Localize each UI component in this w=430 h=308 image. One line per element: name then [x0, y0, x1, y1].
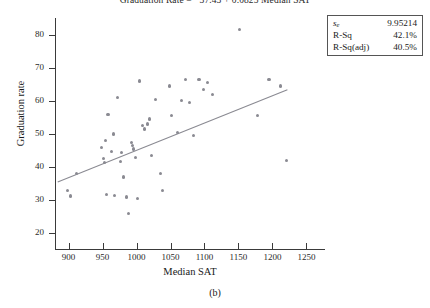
regression-equation-title: Graduation Rate = −37.43 + 0.0825 Median… — [0, 0, 430, 5]
stat-value: 40.5% — [393, 42, 417, 53]
x-tick-1200 — [272, 243, 273, 249]
data-point — [184, 78, 187, 81]
data-point — [188, 101, 191, 104]
data-point — [159, 172, 162, 175]
data-point — [211, 93, 214, 96]
data-point — [100, 146, 103, 149]
data-point — [168, 84, 171, 87]
x-tick-1150 — [238, 243, 239, 249]
x-axis-line — [55, 249, 325, 250]
panel-caption: (b) — [0, 287, 430, 298]
data-point — [134, 156, 137, 159]
y-tick-50 — [49, 134, 55, 135]
data-point — [66, 189, 69, 192]
stat-value: 9.95214 — [387, 18, 417, 29]
statistics-legend-box: se9.95214R-Sq42.1%R-Sq(adj)40.5% — [327, 15, 423, 56]
data-point — [102, 157, 105, 160]
data-point — [150, 154, 153, 157]
data-point — [138, 79, 141, 82]
data-point — [176, 131, 179, 134]
stat-key: R-Sq — [333, 30, 352, 41]
data-point — [122, 175, 125, 178]
y-tick-70 — [49, 68, 55, 69]
stat-key: R-Sq(adj) — [333, 42, 369, 53]
data-point — [69, 194, 72, 197]
data-point — [104, 139, 107, 142]
x-tick-950 — [103, 243, 104, 249]
data-point — [202, 88, 205, 91]
y-axis-label: Graduation rate — [15, 54, 26, 174]
data-point — [120, 151, 123, 154]
stat-row: se9.95214 — [328, 18, 422, 30]
data-point — [267, 78, 270, 81]
regression-scatter-figure: Graduation Rate = −37.43 + 0.0825 Median… — [0, 0, 430, 308]
data-point — [192, 134, 195, 137]
x-tick-1000 — [137, 243, 138, 249]
data-point — [125, 195, 128, 198]
data-point — [136, 197, 139, 200]
y-tick-30 — [49, 200, 55, 201]
data-point — [103, 161, 106, 164]
data-point — [105, 193, 108, 196]
stat-value: 42.1% — [393, 30, 417, 41]
data-point — [110, 150, 113, 153]
data-point — [116, 96, 119, 99]
x-tick-1250 — [306, 243, 307, 249]
data-point — [238, 28, 241, 31]
data-point — [206, 81, 209, 84]
data-point — [113, 194, 116, 197]
regression-fit-line — [55, 18, 320, 250]
y-tick-label-30: 30 — [14, 195, 44, 204]
data-point — [127, 212, 130, 215]
x-tick-1100 — [204, 243, 205, 249]
stat-key: se — [333, 18, 340, 30]
x-axis-label: Median SAT — [55, 266, 325, 277]
data-point — [180, 99, 183, 102]
x-tick-900 — [69, 243, 70, 249]
y-tick-label-80: 80 — [14, 30, 44, 39]
data-point — [285, 159, 288, 162]
data-point — [148, 117, 151, 120]
y-tick-40 — [49, 167, 55, 168]
data-point — [132, 147, 135, 150]
data-point — [170, 114, 173, 117]
data-point — [161, 189, 164, 192]
y-tick-60 — [49, 101, 55, 102]
y-axis-line — [55, 18, 56, 250]
data-point — [143, 127, 146, 130]
data-point — [256, 114, 259, 117]
y-tick-20 — [49, 233, 55, 234]
x-tick-label-1250: 1250 — [286, 253, 326, 262]
data-point — [112, 132, 115, 135]
stat-row: R-Sq42.1% — [328, 30, 422, 41]
x-tick-1050 — [171, 243, 172, 249]
y-tick-80 — [49, 35, 55, 36]
data-point — [154, 98, 157, 101]
data-point — [146, 122, 149, 125]
data-point — [75, 172, 78, 175]
data-point — [106, 113, 109, 116]
y-tick-label-20: 20 — [14, 228, 44, 237]
data-point — [279, 84, 282, 87]
data-point — [119, 160, 122, 163]
data-point — [197, 78, 200, 81]
stat-row: R-Sq(adj)40.5% — [328, 42, 422, 53]
